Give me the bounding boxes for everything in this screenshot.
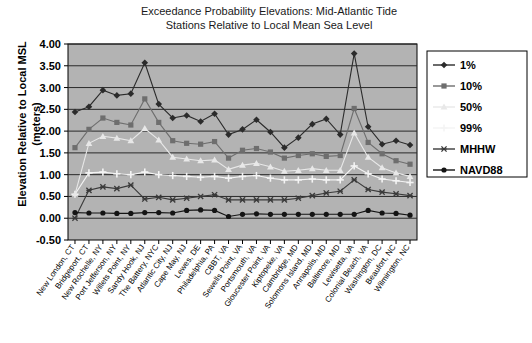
- data-point: [198, 207, 203, 212]
- y-tick-label: 3.50: [40, 60, 61, 72]
- legend-label: 50%: [460, 101, 482, 113]
- data-point: [184, 141, 189, 146]
- data-point: [198, 142, 203, 147]
- y-tick-label: -0.50: [36, 234, 61, 246]
- data-point: [254, 146, 259, 151]
- chart-legend: 1%10%50%99%MHHWNAVD88: [427, 51, 527, 177]
- data-point: [296, 153, 301, 158]
- data-point: [128, 122, 133, 127]
- data-point: [324, 212, 329, 217]
- data-point: [226, 214, 231, 219]
- y-tick-label: 0.50: [40, 190, 61, 202]
- data-point: [407, 162, 412, 167]
- x-axis-labels: New London, CTBridgeport, CTNew Rochelle…: [35, 242, 412, 310]
- data-point: [72, 210, 77, 215]
- y-tick-label: 2.00: [40, 125, 61, 137]
- data-point: [142, 210, 147, 215]
- data-point: [100, 210, 105, 215]
- data-point: [338, 212, 343, 217]
- data-point: [86, 210, 91, 215]
- data-point: [380, 151, 385, 156]
- y-axis-ticks: 4.003.503.002.502.001.501.000.500.00-0.5…: [36, 38, 68, 246]
- y-tick-label: 1.00: [40, 169, 61, 181]
- legend-label: MHHW: [460, 143, 496, 155]
- data-point: [282, 212, 287, 217]
- legend-label: 99%: [460, 122, 482, 134]
- legend-label: NAVD88: [460, 164, 503, 176]
- data-point: [324, 154, 329, 159]
- data-point: [212, 208, 217, 213]
- chart-figure: Exceedance Probability Elevations: Mid-A…: [0, 0, 532, 343]
- data-point: [184, 208, 189, 213]
- data-point: [226, 156, 231, 161]
- y-tick-label: 4.00: [40, 38, 61, 50]
- data-point: [393, 158, 398, 163]
- legend-box: [427, 51, 527, 177]
- data-point: [296, 212, 301, 217]
- data-point: [170, 210, 175, 215]
- data-point: [72, 145, 77, 150]
- data-point: [156, 210, 161, 215]
- data-point: [366, 208, 371, 213]
- y-tick-label: 3.00: [40, 82, 61, 94]
- plot-background: [68, 44, 417, 240]
- data-point: [254, 211, 259, 216]
- y-tick-label: 2.50: [40, 103, 61, 115]
- data-point: [240, 212, 245, 217]
- data-point: [128, 211, 133, 216]
- data-point: [240, 148, 245, 153]
- data-point: [282, 156, 287, 161]
- y-tick-label: 0.00: [40, 212, 61, 224]
- data-point: [352, 106, 357, 111]
- data-point: [441, 167, 446, 172]
- data-point: [441, 83, 446, 88]
- data-point: [352, 212, 357, 217]
- data-point: [212, 139, 217, 144]
- data-point: [156, 120, 161, 125]
- data-point: [86, 127, 91, 132]
- data-point: [310, 151, 315, 156]
- data-point: [114, 211, 119, 216]
- y-tick-label: 1.50: [40, 147, 61, 159]
- data-point: [407, 213, 412, 218]
- data-point: [393, 211, 398, 216]
- data-point: [114, 120, 119, 125]
- legend-label: 1%: [460, 59, 476, 71]
- data-point: [380, 210, 385, 215]
- data-point: [310, 212, 315, 217]
- gridlines: [68, 44, 417, 240]
- data-point: [268, 149, 273, 154]
- data-point: [100, 115, 105, 120]
- data-point: [338, 153, 343, 158]
- data-point: [142, 96, 147, 101]
- plot-area: 4.003.503.002.502.001.501.000.500.00-0.5…: [0, 0, 532, 343]
- data-point: [268, 212, 273, 217]
- data-point: [366, 140, 371, 145]
- legend-label: 10%: [460, 80, 482, 92]
- data-point: [170, 138, 175, 143]
